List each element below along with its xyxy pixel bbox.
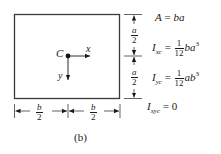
centroid-label: C <box>56 47 63 59</box>
equation-iyc: Iyc = 112ab3 <box>152 69 199 88</box>
dimension-a-half-upper: a 2 <box>131 26 138 45</box>
dimension-b-half-left: b 2 <box>36 103 43 122</box>
horizontal-dimension <box>15 104 121 118</box>
equation-ixyc: Ixyc = 0 <box>147 100 177 115</box>
figure-caption: (b) <box>74 131 87 143</box>
dimension-b-half-right: b 2 <box>90 103 97 122</box>
x-axis-label: x <box>86 43 90 54</box>
y-axis-label: y <box>58 70 62 81</box>
equation-area: A = ba <box>155 11 184 23</box>
equation-ixc: Ixc = 112ba3 <box>152 39 199 58</box>
dimension-a-half-lower: a 2 <box>131 68 138 87</box>
